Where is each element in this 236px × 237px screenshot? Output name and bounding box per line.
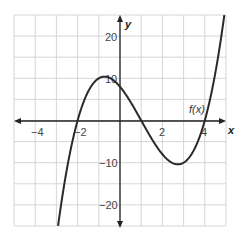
x-axis-right-arrow-icon (219, 118, 226, 124)
y-axis-up-arrow-icon (117, 15, 123, 22)
function-graph: x y −4 −2 2 4 20 10 −10 −20 f(x) (0, 0, 236, 237)
y-axis-label: y (124, 18, 132, 30)
y-tick-label: −20 (99, 199, 118, 211)
y-tick-label: −10 (99, 157, 118, 169)
x-axis-left-arrow-icon (14, 118, 21, 124)
x-tick-label: −4 (31, 126, 44, 138)
x-tick-label: 2 (159, 126, 165, 138)
y-tick-label: 20 (105, 31, 117, 43)
y-axis-down-arrow-icon (117, 221, 123, 228)
x-axis-label: x (227, 124, 235, 136)
curve-label: f(x) (189, 103, 205, 115)
